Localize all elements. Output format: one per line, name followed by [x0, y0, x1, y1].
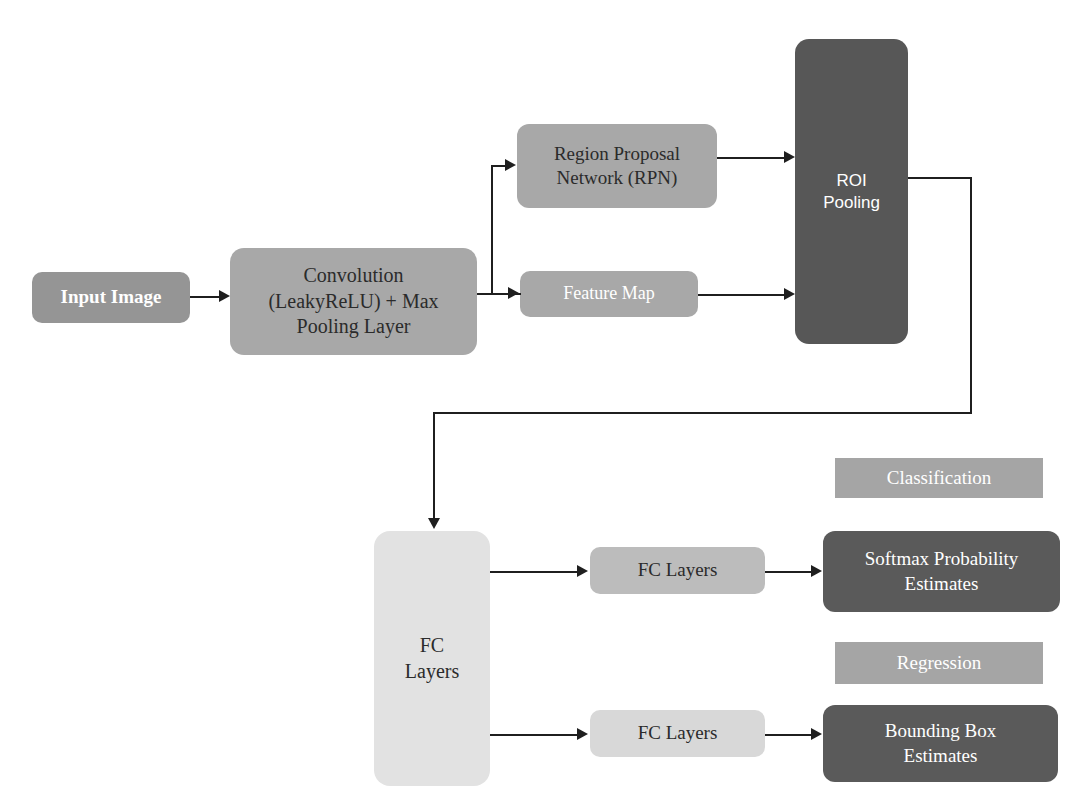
arrowhead-feature-map-to-roi-pooling: [784, 288, 795, 300]
edge-fc-main-to-fc-bottom: [490, 734, 579, 736]
node-bounding-box-estimates: Bounding Box Estimates: [823, 705, 1058, 782]
node-fc-layers-main: FC Layers: [374, 531, 490, 786]
arrowhead-roi-pooling-to-fc-layers: [428, 518, 440, 529]
arrowhead-convolution-to-feature-map: [508, 287, 519, 299]
node-softmax-probability-estimates: Softmax Probability Estimates: [823, 531, 1060, 612]
edge-fc-bottom-to-bounding-box: [765, 734, 813, 736]
node-roi-pooling: ROI Pooling: [795, 39, 908, 344]
node-fc-layers-classification-branch: FC Layers: [590, 547, 765, 594]
arrowhead-fc-main-to-fc-bottom: [577, 728, 588, 740]
arrowhead-fc-main-to-fc-top: [577, 565, 588, 577]
edge-roi-pooling-descender: [970, 177, 972, 413]
diagram-canvas: Input Image Convolution (LeakyReLU) + Ma…: [0, 0, 1084, 811]
arrowhead-input-to-convolution: [219, 290, 230, 302]
edge-feature-map-to-roi-pooling: [698, 294, 787, 296]
node-fc-layers-regression-branch: FC Layers: [590, 710, 765, 757]
node-input-image: Input Image: [32, 272, 190, 323]
arrowhead-fc-top-to-softmax: [811, 565, 822, 577]
arrowhead-rpn-to-roi-pooling: [784, 151, 795, 163]
arrowhead-fc-bottom-to-bounding-box: [811, 728, 822, 740]
node-feature-map: Feature Map: [520, 271, 698, 317]
node-region-proposal-network: Region Proposal Network (RPN): [517, 124, 717, 208]
node-convolution-maxpooling: Convolution (LeakyReLU) + Max Pooling La…: [230, 248, 477, 355]
edge-fc-main-to-fc-top: [490, 571, 579, 573]
edge-convolution-riser: [491, 165, 493, 294]
arrowhead-convolution-to-rpn: [505, 159, 516, 171]
node-regression-label: Regression: [835, 642, 1043, 684]
edge-roi-pooling-exit: [908, 177, 972, 179]
edge-roi-pooling-return: [433, 412, 972, 414]
edge-rpn-to-roi-pooling: [717, 157, 787, 159]
edge-fc-top-to-softmax: [765, 571, 813, 573]
edge-input-to-convolution: [190, 296, 220, 298]
node-classification-label: Classification: [835, 458, 1043, 498]
edge-roi-pooling-to-fc-layers: [433, 412, 435, 520]
